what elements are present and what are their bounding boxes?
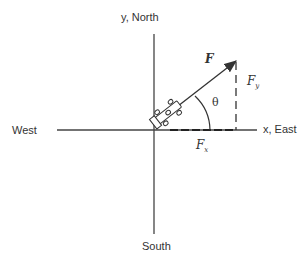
car-icon (148, 97, 185, 132)
fy-label: Fy (247, 74, 259, 90)
y-axis-label: y, North (121, 11, 159, 23)
theta-label: θ (212, 96, 219, 109)
fx-label: Fx (196, 138, 208, 154)
force-label: F (205, 52, 214, 66)
theta-arc (195, 96, 210, 130)
west-label: West (12, 124, 37, 136)
x-axis-label: x, East (263, 123, 297, 135)
south-label: South (142, 240, 171, 252)
force-diagram (0, 0, 303, 257)
